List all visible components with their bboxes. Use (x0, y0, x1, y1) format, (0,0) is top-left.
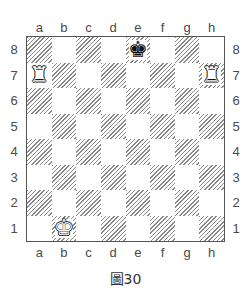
chess-board: ♚♜♜♚ (26, 36, 225, 242)
square-f8 (150, 37, 175, 63)
square-f3 (150, 165, 175, 191)
square-d1 (101, 216, 126, 242)
square-f6 (150, 88, 175, 114)
square-c4 (76, 139, 101, 165)
rank-label-6: 6 (226, 88, 246, 114)
square-c3 (76, 165, 101, 191)
rank-label-4: 4 (226, 139, 246, 165)
file-label-b: b (52, 245, 77, 261)
square-a4 (27, 139, 52, 165)
square-a6 (27, 88, 52, 114)
square-e3 (126, 165, 151, 191)
white-rook-icon: ♜ (29, 64, 49, 86)
rank-label-4: 4 (4, 139, 24, 165)
square-e6 (126, 88, 151, 114)
rank-label-7: 7 (226, 63, 246, 89)
file-label-d: d (101, 20, 126, 36)
square-g7 (175, 63, 200, 89)
rank-label-8: 8 (4, 37, 24, 63)
square-h8 (199, 37, 224, 63)
square-b1: ♚ (52, 216, 77, 242)
rank-label-6: 6 (4, 88, 24, 114)
square-a5 (27, 114, 52, 140)
file-label-h: h (199, 20, 224, 36)
square-f7 (150, 63, 175, 89)
square-e8: ♚ (126, 37, 151, 63)
square-c6 (76, 88, 101, 114)
square-a2 (27, 190, 52, 216)
square-h2 (199, 190, 224, 216)
rank-label-8: 8 (226, 37, 246, 63)
file-label-f: f (150, 245, 175, 261)
square-f1 (150, 216, 175, 242)
square-g1 (175, 216, 200, 242)
square-c2 (76, 190, 101, 216)
file-label-e: e (126, 245, 151, 261)
square-c5 (76, 114, 101, 140)
square-h3 (199, 165, 224, 191)
white-rook-icon: ♜ (202, 64, 222, 86)
file-label-a: a (27, 245, 52, 261)
rank-label-1: 1 (4, 216, 24, 242)
square-a1 (27, 216, 52, 242)
square-c8 (76, 37, 101, 63)
square-d4 (101, 139, 126, 165)
square-d5 (101, 114, 126, 140)
square-c1 (76, 216, 101, 242)
file-label-e: e (126, 20, 151, 36)
square-a8 (27, 37, 52, 63)
square-d2 (101, 190, 126, 216)
square-a7: ♜ (27, 63, 52, 89)
square-b4 (52, 139, 77, 165)
square-b5 (52, 114, 77, 140)
square-e4 (126, 139, 151, 165)
square-a3 (27, 165, 52, 191)
square-f5 (150, 114, 175, 140)
square-d6 (101, 88, 126, 114)
square-f2 (150, 190, 175, 216)
rank-label-1: 1 (226, 216, 246, 242)
rank-label-3: 3 (4, 165, 24, 191)
square-b2 (52, 190, 77, 216)
square-h1 (199, 216, 224, 242)
rank-label-5: 5 (4, 114, 24, 140)
file-labels-top: a b c d e f g h (27, 20, 224, 36)
square-e5 (126, 114, 151, 140)
square-b8 (52, 37, 77, 63)
square-b3 (52, 165, 77, 191)
file-label-d: d (101, 245, 126, 261)
file-label-c: c (76, 245, 101, 261)
figure-caption: 圖30 (0, 268, 251, 288)
square-d7 (101, 63, 126, 89)
square-b7 (52, 63, 77, 89)
file-label-g: g (175, 245, 200, 261)
rank-label-7: 7 (4, 63, 24, 89)
rank-labels-right: 8 7 6 5 4 3 2 1 (226, 37, 246, 241)
square-g3 (175, 165, 200, 191)
file-labels-bottom: a b c d e f g h (27, 245, 224, 261)
rank-label-3: 3 (226, 165, 246, 191)
rank-label-2: 2 (226, 190, 246, 216)
square-h7: ♜ (199, 63, 224, 89)
black-king-icon: ♚ (128, 39, 148, 61)
square-e2 (126, 190, 151, 216)
rank-label-5: 5 (226, 114, 246, 140)
rank-label-2: 2 (4, 190, 24, 216)
square-e1 (126, 216, 151, 242)
rank-labels-left: 8 7 6 5 4 3 2 1 (4, 37, 24, 241)
square-h4 (199, 139, 224, 165)
square-g4 (175, 139, 200, 165)
file-label-h: h (199, 245, 224, 261)
square-d8 (101, 37, 126, 63)
square-g8 (175, 37, 200, 63)
square-c7 (76, 63, 101, 89)
square-h6 (199, 88, 224, 114)
file-label-b: b (52, 20, 77, 36)
square-e7 (126, 63, 151, 89)
square-d3 (101, 165, 126, 191)
square-f4 (150, 139, 175, 165)
file-label-c: c (76, 20, 101, 36)
square-b6 (52, 88, 77, 114)
file-label-f: f (150, 20, 175, 36)
square-g5 (175, 114, 200, 140)
